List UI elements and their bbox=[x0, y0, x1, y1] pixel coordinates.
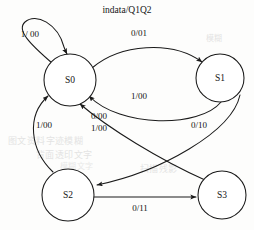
state-label-s3: S3 bbox=[217, 190, 227, 200]
state-label-s0: S0 bbox=[65, 75, 75, 85]
transition-label-s0-to-s1: 0/01 bbox=[131, 28, 147, 38]
transition-label-s1-to-s0: 1/00 bbox=[131, 91, 148, 101]
state-node-s2[interactable]: S2 bbox=[42, 169, 94, 221]
transition-label-s2-to-s3: 0/11 bbox=[132, 203, 148, 213]
transition-s1-to-s0 bbox=[89, 96, 221, 121]
state-machine-diagram: 图文资料字迹模糊 背面透印文字 扫描残影 模糊 模糊文字 indata/Q1Q2… bbox=[0, 0, 254, 230]
state-label-s2: S2 bbox=[63, 190, 73, 200]
transition-label-s0-to-s0: 1/ 00 bbox=[21, 29, 40, 39]
diagram-title: indata/Q1Q2 bbox=[102, 5, 151, 15]
state-node-s1[interactable]: S1 bbox=[196, 54, 244, 102]
state-node-s3[interactable]: S3 bbox=[198, 171, 246, 219]
transition-label-s3-to-s0-b: 1/00 bbox=[91, 123, 108, 133]
transition-label-s2-to-s0: 1/00 bbox=[36, 120, 53, 130]
transition-label-s3-to-s0-a: 0/00 bbox=[91, 111, 108, 121]
transition-label-s1-to-s2: 0/10 bbox=[191, 120, 208, 130]
fsm-canvas: indata/Q1Q2 1/ 00 0/01 1/00 0/00 1/00 1/… bbox=[0, 0, 254, 230]
transition-s2-to-s0 bbox=[33, 96, 53, 172]
transition-s0-to-s1 bbox=[92, 48, 202, 68]
state-label-s1: S1 bbox=[215, 73, 225, 83]
state-node-s0[interactable]: S0 bbox=[44, 54, 96, 106]
